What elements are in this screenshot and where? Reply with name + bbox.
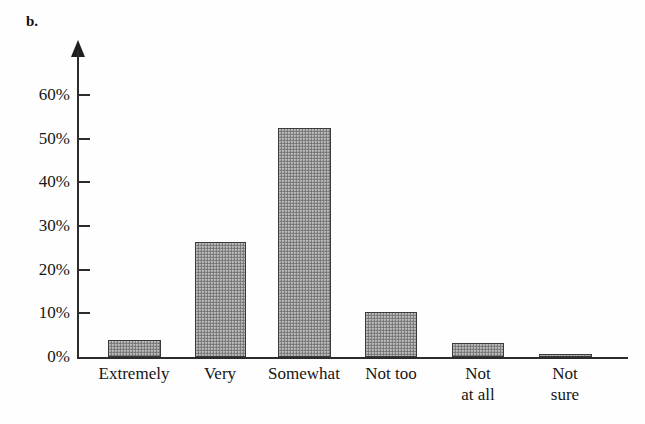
y-axis-tick-label: 30% xyxy=(18,217,70,234)
y-axis-tick-label: 20% xyxy=(18,261,70,278)
y-axis-tick-label: 60% xyxy=(18,86,70,103)
bar xyxy=(278,128,331,357)
bar xyxy=(452,343,504,357)
y-axis-tick-label-text: 10% xyxy=(18,304,70,321)
x-axis-line xyxy=(77,357,628,359)
y-axis-tick-label-text: 40% xyxy=(18,173,70,190)
y-axis-tick xyxy=(79,181,90,183)
y-axis-tick xyxy=(79,269,90,271)
chart-figure: b. 0%10%20%30%40%50%60% ExtremelyVerySom… xyxy=(0,0,645,424)
bar xyxy=(195,242,246,357)
y-axis-tick-label-text: 20% xyxy=(18,261,70,278)
y-axis-tick-label-text: 50% xyxy=(18,130,70,147)
y-axis-tick xyxy=(79,312,90,314)
y-axis-tick xyxy=(79,225,90,227)
y-axis-tick-label: 10% xyxy=(18,304,70,321)
y-axis-tick-label-text: 30% xyxy=(18,217,70,234)
plot-area: 0%10%20%30%40%50%60% ExtremelyVerySomewh… xyxy=(0,0,645,424)
y-axis-tick-label-text: 60% xyxy=(18,86,70,103)
y-axis-tick-label: 0% xyxy=(18,348,70,365)
y-axis-tick-label-text: 0% xyxy=(18,348,70,365)
bar xyxy=(365,312,417,357)
y-axis-tick xyxy=(79,138,90,140)
y-axis-tick-label: 50% xyxy=(18,130,70,147)
y-axis-tick-label: 40% xyxy=(18,173,70,190)
bar xyxy=(539,354,592,357)
y-axis-tick xyxy=(79,94,90,96)
x-axis-category-label: Not sure xyxy=(505,363,625,405)
bar xyxy=(108,340,161,357)
